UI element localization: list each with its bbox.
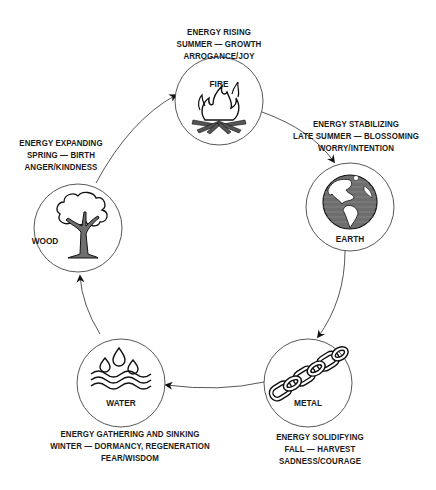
water-caption-energy: ENERGY GATHERING AND SINKING <box>47 428 213 440</box>
wood-caption-emotion: ANGER/KINDNESS <box>10 161 111 173</box>
wood-caption: ENERGY EXPANDING SPRING — BIRTH ANGER/KI… <box>10 137 111 174</box>
wood-label: WOOD <box>27 236 64 246</box>
fire-caption: ENERGY RISING SUMMER — GROWTH ARROGANCE/… <box>150 26 288 63</box>
fire-caption-season: SUMMER — GROWTH <box>150 38 288 50</box>
metal-caption: ENERGY SOLIDIFYING FALL — HARVEST SADNES… <box>265 431 375 468</box>
arrow-earth-to-metal <box>318 251 345 337</box>
metal-label: METAL <box>285 398 331 408</box>
fire-label: FIRE <box>201 79 238 89</box>
water-caption-season: WINTER — DORMANCY, REGENERATION <box>47 440 213 452</box>
fire-caption-energy: ENERGY RISING <box>150 26 288 38</box>
water-caption-emotion: FEAR/WISDOM <box>47 452 213 464</box>
earth-label: EARTH <box>327 234 373 244</box>
arrow-water-to-wood <box>80 276 100 334</box>
metal-caption-emotion: SADNESS/COURAGE <box>265 455 375 467</box>
globe-icon <box>323 175 377 229</box>
earth-caption-emotion: WORRY/INTENTION <box>282 142 429 154</box>
earth-caption-energy: ENERGY STABILIZING <box>282 118 429 130</box>
earth-caption: ENERGY STABILIZING LATE SUMMER — BLOSSOM… <box>282 118 429 155</box>
wood-caption-season: SPRING — BIRTH <box>10 149 111 161</box>
water-caption: ENERGY GATHERING AND SINKING WINTER — DO… <box>47 428 213 465</box>
cycle-diagram <box>0 0 436 490</box>
fire-caption-emotion: ARROGANCE/JOY <box>150 50 288 62</box>
wood-caption-energy: ENERGY EXPANDING <box>10 137 111 149</box>
metal-caption-season: FALL — HARVEST <box>265 443 375 455</box>
arrow-metal-to-water <box>166 382 264 388</box>
earth-caption-season: LATE SUMMER — BLOSSOMING <box>282 130 429 142</box>
metal-caption-energy: ENERGY SOLIDIFYING <box>265 431 375 443</box>
water-label: WATER <box>98 398 144 408</box>
